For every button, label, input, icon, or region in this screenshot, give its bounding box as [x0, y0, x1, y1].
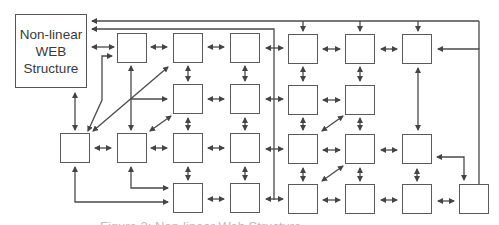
node-box-r4c4: [230, 183, 260, 213]
node-box-r3c4: [230, 133, 260, 163]
node-box-r3c2: [117, 133, 147, 163]
node-box-r1c2: [117, 33, 147, 63]
node-box-r4c6: [345, 184, 375, 214]
title-line-1: Non-linear: [20, 26, 82, 43]
node-box-r1c7: [402, 34, 432, 64]
node-box-r1c6: [345, 34, 375, 64]
node-box-r3c6: [345, 134, 375, 164]
node-box-r2c4: [230, 84, 260, 114]
non-linear-web-structure-label: Non-linear WEB Structure: [15, 14, 87, 88]
figure-caption: Figure 2: Non-linear Web Structure: [100, 219, 360, 225]
node-box-r3c5: [288, 134, 318, 164]
node-box-r1c3: [173, 33, 203, 63]
title-line-2: WEB: [36, 43, 67, 60]
node-box-r2c5: [288, 85, 318, 115]
title-line-3: Structure: [24, 60, 79, 77]
node-box-r3c3: [173, 133, 203, 163]
node-box-r4c7: [402, 184, 432, 214]
node-box-r1c5: [288, 34, 318, 64]
node-box-r3c1: [60, 133, 90, 163]
node-box-r2c6: [345, 85, 375, 115]
node-box-r4c5: [288, 184, 318, 214]
node-box-r2c3: [173, 84, 203, 114]
node-box-r3c7: [402, 134, 432, 164]
node-box-r4c3: [173, 183, 203, 213]
node-box-r1c4: [230, 33, 260, 63]
node-box-r4c8: [459, 184, 489, 214]
